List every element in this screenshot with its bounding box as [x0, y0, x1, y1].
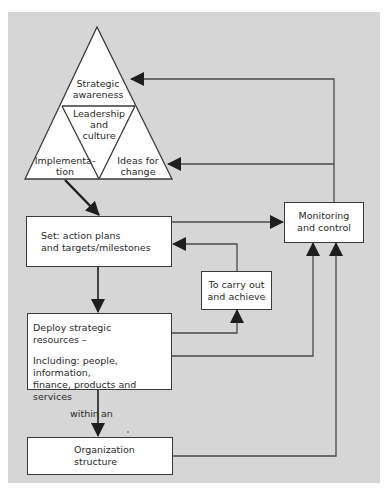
arrow-deploy-to-carry	[172, 310, 237, 333]
organization-structure-box: Organization structure	[27, 437, 173, 475]
label-implementation: Implementa- tion	[32, 155, 98, 177]
label-within: within	[70, 408, 99, 419]
arrow-carry-to-set	[173, 244, 237, 271]
label-strategic-awareness: Strategic awareness	[67, 78, 129, 100]
set-action-plans-box: Set: action plans and targets/milestones	[26, 216, 172, 267]
arrow-implementation-to-set	[65, 180, 99, 215]
label-ideas-for-change: Ideas for change	[111, 155, 165, 177]
carry-out-achieve-box: To carry out and achieve	[201, 271, 272, 310]
label-leadership-culture: Leadership and culture	[68, 108, 130, 141]
deploy-resources-box: Deploy strategic resources – Including: …	[27, 313, 172, 390]
label-an: an	[101, 408, 113, 419]
monitoring-control-box: Monitoring and control	[284, 202, 364, 243]
arrow-monitoring-to-awareness	[131, 79, 334, 202]
